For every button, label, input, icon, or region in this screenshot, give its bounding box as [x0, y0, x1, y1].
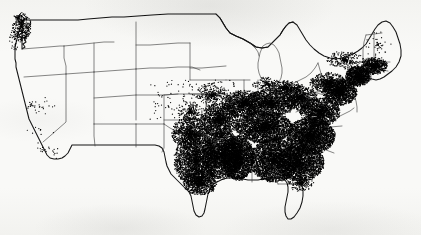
dot-density-map-figure [0, 0, 421, 235]
dot-density-layer [0, 0, 421, 235]
